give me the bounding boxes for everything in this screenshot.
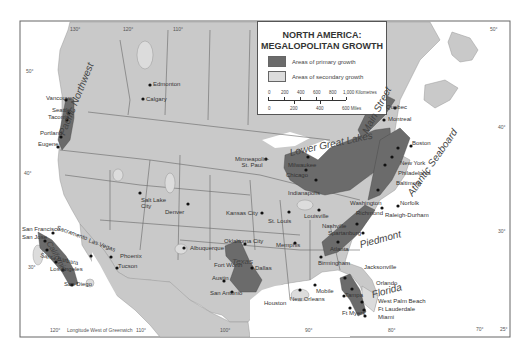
city-miami: Miami bbox=[378, 314, 394, 320]
city-san-francisco: San Francisco bbox=[22, 226, 60, 232]
legend-item-secondary: Areas of secondary growth bbox=[268, 71, 386, 82]
city-indianapolis: Indianapolis bbox=[288, 190, 320, 196]
lat-50-left: 50° bbox=[26, 68, 34, 74]
lon-120-bottom: 120° bbox=[50, 327, 60, 333]
city-spartanburg: Spartanburg bbox=[328, 230, 361, 236]
city-ft-lauderdale: Ft Lauderdale bbox=[378, 306, 415, 312]
scale-km-200: 200 bbox=[281, 90, 289, 95]
city-albuquerque: Albuquerque bbox=[190, 245, 224, 251]
city-new-orleans: New Orleans bbox=[290, 296, 325, 302]
city-nashville: Nashville bbox=[322, 223, 346, 229]
city-st-louis: St. Louis bbox=[268, 218, 291, 224]
city-seattle: Seattle bbox=[52, 107, 71, 113]
secondary-swatch bbox=[268, 71, 286, 82]
scale-mi-400: 400 bbox=[316, 106, 324, 111]
city-ft-myers: Ft Myers bbox=[342, 310, 365, 316]
city-chicago: Chicago bbox=[286, 172, 308, 178]
city-tampa: Tampa bbox=[345, 292, 363, 298]
primary-swatch bbox=[268, 56, 286, 67]
scale-line bbox=[268, 100, 346, 101]
lat-30-left: 30° bbox=[28, 264, 36, 270]
lon-100-bottom: 100° bbox=[220, 327, 230, 333]
city-vancouver: Vancouver bbox=[46, 95, 74, 101]
city-louisville: Louisville bbox=[304, 213, 329, 219]
city-boston: Boston bbox=[412, 140, 431, 146]
city-houston: Houston bbox=[264, 300, 286, 306]
city-memphis: Memphis bbox=[276, 242, 300, 248]
scale-mi-600: 600 Miles bbox=[342, 106, 361, 111]
city-washington: Washington bbox=[350, 200, 381, 206]
scale-mi-0: 0 bbox=[268, 106, 271, 111]
lon-110-top: 110° bbox=[173, 26, 183, 32]
city-tacoma: Tacoma bbox=[48, 114, 69, 120]
city-san-antonio: San Antonio bbox=[210, 290, 242, 296]
city-philadelphia: Philadelphia bbox=[398, 170, 431, 176]
legend-title-line1: NORTH AMERICA: bbox=[258, 30, 386, 41]
city-san-diego: San Diego bbox=[64, 281, 92, 287]
scale-bar: 0 200 400 600 800 1,000 Kilometres 0 200… bbox=[268, 88, 378, 114]
city-baltimore: Baltimore bbox=[396, 180, 421, 186]
city-west-palm-beach: West Palm Beach bbox=[378, 298, 426, 304]
city-quebec: Quebec bbox=[386, 104, 407, 110]
scale-km-0: 0 bbox=[268, 90, 271, 95]
scale-mi-200: 200 bbox=[290, 106, 298, 111]
legend-item-primary: Areas of primary growth bbox=[268, 56, 386, 67]
city-phoenix: Phoenix bbox=[120, 253, 142, 259]
city-milwaukee: Milwaukee bbox=[288, 162, 316, 168]
city-fort-worth: Fort Worth bbox=[214, 262, 242, 268]
city-san-jose: San Jose bbox=[22, 234, 47, 240]
lat-40-right: 40° bbox=[498, 124, 506, 130]
city-atlanta: Atlanta bbox=[330, 246, 349, 252]
city-dallas: Dallas bbox=[255, 265, 272, 271]
lat-30-right: 30° bbox=[498, 228, 506, 234]
scale-km-400: 400 bbox=[297, 90, 305, 95]
scale-km-800: 800 bbox=[329, 90, 337, 95]
lon-80-bottom: 80° bbox=[388, 327, 396, 333]
legend-label-primary: Areas of primary growth bbox=[292, 59, 356, 65]
city-salt-lake-city: Salt Lake City bbox=[141, 197, 167, 209]
legend-title-line2: MEGALOPOLITAN GROWTH bbox=[258, 41, 386, 52]
lat-40-left: 40° bbox=[24, 170, 32, 176]
map-legend: NORTH AMERICA: MEGALOPOLITAN GROWTH Area… bbox=[257, 21, 387, 115]
city-montreal: Montreal bbox=[388, 116, 411, 122]
city-orlando: Orlando bbox=[376, 280, 397, 286]
scale-km-600: 600 bbox=[313, 90, 321, 95]
lat-25-right: 25° bbox=[500, 326, 508, 332]
lon-70-bottom: 70° bbox=[476, 326, 484, 332]
city-eugene: Eugene bbox=[38, 141, 59, 147]
lon-120-top: 120° bbox=[123, 26, 133, 32]
lon-90-bottom: 90° bbox=[305, 327, 313, 333]
lon-110-bottom: 110° bbox=[136, 327, 146, 333]
city-edmonton: Edmonton bbox=[153, 81, 180, 87]
city-tucson: Tucson bbox=[118, 263, 137, 269]
city-denver: Denver bbox=[165, 209, 184, 215]
legend-label-secondary: Areas of secondary growth bbox=[292, 74, 363, 80]
city-new-york: New York bbox=[400, 160, 425, 166]
city-mobile: Mobile bbox=[316, 288, 334, 294]
city-jacksonville: Jacksonville bbox=[364, 264, 396, 270]
city-los-angeles: Los Angeles bbox=[50, 266, 83, 272]
scale-km-1000: 1,000 Kilometres bbox=[343, 90, 377, 95]
city-minneapolis-st-paul: Minneapolis-St. Paul bbox=[232, 156, 272, 168]
city-richmond: Richmond bbox=[356, 210, 383, 216]
city-portland: Portland bbox=[40, 130, 62, 136]
lon-130-top: 130° bbox=[70, 26, 80, 32]
city-birmingham: Birmingham bbox=[318, 260, 350, 266]
city-calgary: Calgary bbox=[146, 96, 167, 102]
city-kansas-city: Kansas City bbox=[226, 210, 258, 216]
longitude-note: Longitude West of Greenwich bbox=[67, 327, 133, 333]
lat-50-right: 50° bbox=[490, 26, 498, 32]
city-oklahoma-city: Oklahoma City bbox=[224, 238, 263, 244]
city-austin: Austin bbox=[212, 275, 229, 281]
city-norfolk: Norfolk bbox=[400, 200, 419, 206]
city-raleigh-durham: Raleigh-Durham bbox=[385, 212, 429, 218]
